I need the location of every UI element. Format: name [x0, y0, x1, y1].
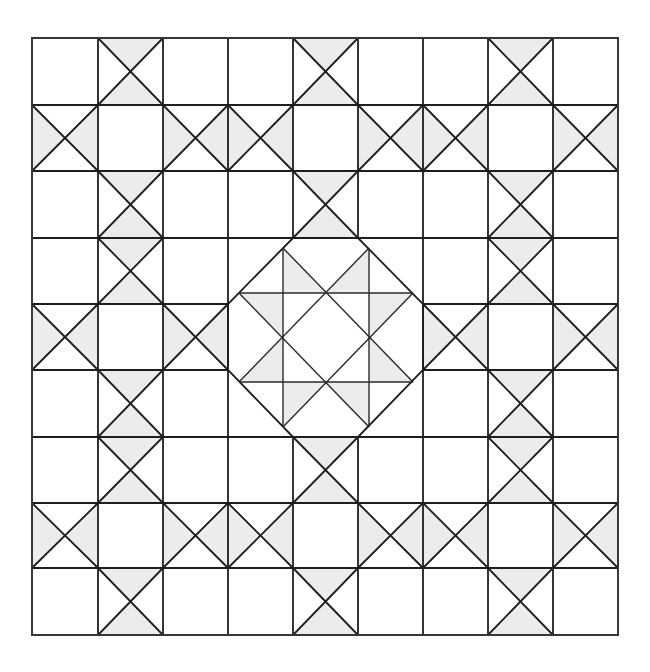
quilt-diagram: [0, 0, 650, 672]
